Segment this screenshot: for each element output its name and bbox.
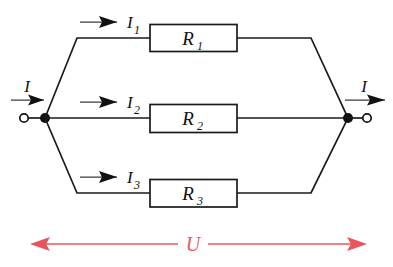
branch-1-right-wire xyxy=(237,38,348,118)
resistor-2-subscript: 2 xyxy=(197,119,203,133)
branch-2-current-subscript: 2 xyxy=(134,103,140,117)
left-terminal-ring xyxy=(20,114,28,122)
resistor-3-subscript: 3 xyxy=(196,194,203,208)
circuit-schematic: I R 1 R 2 R 3 I 1 I 2 I 3 xyxy=(0,0,393,267)
circuit-diagram-canvas: I R 1 R 2 R 3 I 1 I 2 I 3 xyxy=(0,0,393,267)
branch-1-current-subscript: 1 xyxy=(134,23,140,37)
branch-2-current-label: I xyxy=(126,93,134,112)
branch-3-current-subscript: 3 xyxy=(133,178,140,192)
resistor-3-label: R xyxy=(181,183,194,204)
resistor-1-label: R xyxy=(181,28,194,49)
branch-3-right-wire xyxy=(237,118,348,193)
branch-3-current-label: I xyxy=(126,168,134,187)
left-current-label: I xyxy=(23,77,31,96)
voltage-label: U xyxy=(186,233,202,255)
right-terminal-ring xyxy=(363,114,371,122)
right-current-label: I xyxy=(360,77,368,96)
branch-1-current-label: I xyxy=(126,13,134,32)
resistor-1-subscript: 1 xyxy=(197,39,203,53)
resistor-2-label: R xyxy=(181,108,194,129)
